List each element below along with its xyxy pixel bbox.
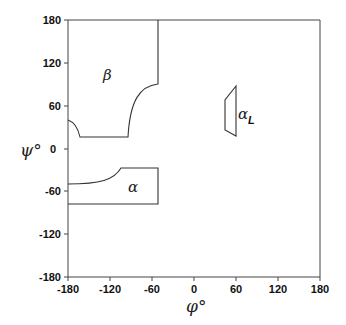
ramachandran-plot: 180 120 60 0 -60 -120 -180 -180 -120 -60…	[0, 0, 346, 325]
x-tick-label: -120	[99, 283, 121, 295]
plot-frame	[68, 20, 320, 277]
x-tick-label: 60	[230, 283, 242, 295]
x-tick-label: 0	[191, 283, 197, 295]
alpha-l-subscript: L	[248, 114, 255, 126]
x-tick-label: 180	[311, 283, 329, 295]
y-axis-title: ψ°	[20, 140, 42, 160]
y-tick-label: -120	[39, 228, 61, 240]
x-tick-label: -180	[57, 283, 79, 295]
alpha-region	[68, 168, 158, 204]
y-tick-label: 180	[43, 14, 61, 26]
y-tick-label: -180	[39, 271, 61, 283]
x-axis-title: φ°	[186, 296, 206, 316]
y-ticks: 180 120 60 0 -60 -120 -180	[39, 14, 68, 283]
x-tick-label: 120	[269, 283, 287, 295]
alpha-label: α	[128, 178, 138, 196]
alpha-l-label: α	[238, 105, 248, 123]
alpha-l-region	[225, 86, 236, 136]
y-tick-label: -60	[45, 185, 61, 197]
beta-label: β	[102, 66, 112, 84]
x-tick-label: -60	[144, 283, 160, 295]
y-tick-label: 0	[50, 143, 56, 155]
beta-region	[68, 20, 158, 137]
y-tick-label: 60	[49, 100, 61, 112]
x-ticks: -180 -120 -60 0 60 120 180	[57, 277, 329, 295]
y-tick-label: 120	[43, 57, 61, 69]
